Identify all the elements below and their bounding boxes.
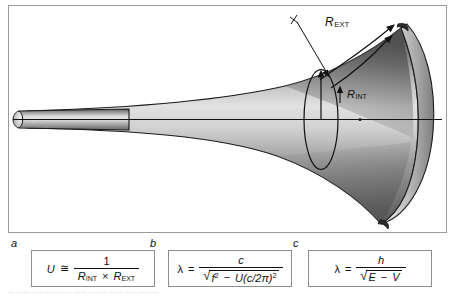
illustration-panel: REXT RINT: [8, 5, 447, 233]
label-r-int-sub: INT: [355, 93, 367, 100]
formula-a-lhs: U: [47, 263, 55, 275]
formula-c-numerator: h: [374, 254, 388, 267]
formula-a-denominator: RINT×REXT: [74, 268, 139, 282]
formula-b-relation: =: [188, 263, 194, 275]
formula-box-c: λ = h √E−V: [308, 250, 432, 287]
formula-a-den-op: ×: [102, 270, 108, 282]
formula-a-numerator: 1: [99, 255, 113, 268]
label-r-ext-sub: EXT: [334, 20, 349, 29]
formula-b-minus: −: [224, 271, 230, 283]
formula-c-relation: =: [345, 263, 351, 275]
axis-center-point: [358, 118, 361, 121]
formula-c-radical: √E−V: [360, 269, 401, 283]
formula-c-term2: V: [392, 271, 399, 283]
formula-b-expression: λ = c √f2−U(c/2π)2: [169, 251, 291, 286]
formula-c-term1: E: [368, 271, 375, 283]
horn-diagram: [9, 6, 446, 232]
formula-b-numerator: c: [234, 254, 248, 267]
formula-c-lhs: λ: [334, 263, 340, 275]
label-r-ext: REXT: [325, 16, 349, 29]
formula-b-radicand: f2−U(c/2π)2: [209, 270, 278, 284]
formula-b-term2-sup: 2: [272, 271, 276, 280]
horn-body: [13, 23, 434, 229]
formula-c-fraction: h √E−V: [356, 254, 405, 283]
label-r-int-base: R: [347, 88, 355, 100]
formula-c-minus: −: [381, 271, 387, 283]
formula-b-fraction: c √f2−U(c/2π)2: [199, 254, 282, 284]
formula-b-denominator: √f2−U(c/2π)2: [199, 267, 282, 284]
formula-letter-a: a: [11, 237, 17, 249]
formula-b-term1-sup: 2: [215, 271, 219, 280]
formula-b-term2: U: [235, 271, 243, 283]
formula-a-relation: ≅: [60, 262, 69, 275]
crosshair-icon: [290, 15, 298, 24]
label-r-int: RINT: [347, 89, 367, 100]
formula-a-fraction: 1 RINT×REXT: [74, 255, 139, 282]
r-ext-leader-line: [290, 15, 330, 78]
formula-c-expression: λ = h √E−V: [309, 251, 431, 286]
formula-a-den-r1-sub: INT: [86, 275, 97, 282]
formula-c-radicand: E−V: [366, 270, 401, 283]
label-r-ext-base: R: [325, 15, 334, 29]
formula-c-denominator: √E−V: [356, 267, 405, 283]
formula-letter-c: c: [293, 237, 299, 249]
formula-b-radical: √f2−U(c/2π)2: [203, 269, 278, 284]
formula-a-den-r2-sub: EXT: [121, 275, 135, 282]
formula-b-term2-paren: (c/2π): [243, 271, 272, 283]
formula-a-den-r1: R: [78, 270, 86, 282]
figure-page: REXT RINT a U ≅ 1 RINT×REXT b λ = c √f2−…: [0, 0, 455, 298]
figure-caption: — —— —— ———— —— ——— —— —— ———: [8, 289, 258, 295]
formula-box-b: λ = c √f2−U(c/2π)2: [168, 250, 292, 287]
formula-box-a: U ≅ 1 RINT×REXT: [31, 250, 155, 287]
formula-letter-b: b: [150, 237, 156, 249]
formula-b-lhs: λ: [177, 263, 183, 275]
formula-a-expression: U ≅ 1 RINT×REXT: [32, 251, 154, 286]
